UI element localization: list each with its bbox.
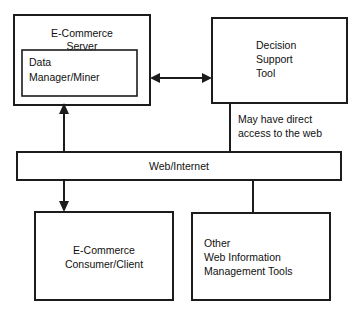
node-decision-support-tool-line2: Support xyxy=(256,53,293,65)
connector-server-to-dst[interactable] xyxy=(150,73,212,83)
node-data-manager-miner-line1: Data xyxy=(29,56,51,68)
annotation-direct-access-line2: access to the web xyxy=(238,127,322,139)
node-ecommerce-server-line1: E-Commerce xyxy=(51,27,113,39)
arrow-head-right-icon xyxy=(202,73,212,83)
arrow-head-left-icon xyxy=(150,73,160,83)
node-data-manager-miner-line2: Manager/Miner xyxy=(29,71,100,83)
arrow-head-down-icon xyxy=(59,201,69,212)
node-other-web-tools-line3: Management Tools xyxy=(204,265,293,277)
connector-web-to-server[interactable] xyxy=(59,103,69,152)
diagram-canvas: E-Commerce Server Data Manager/Miner Dec… xyxy=(0,0,361,315)
node-other-web-tools-line2: Web Information xyxy=(204,251,281,263)
connector-web-to-client[interactable] xyxy=(59,180,69,212)
architecture-diagram: E-Commerce Server Data Manager/Miner Dec… xyxy=(0,0,361,315)
node-ecommerce-client-line1: E-Commerce xyxy=(73,244,135,256)
annotation-direct-access-line1: May have direct xyxy=(238,113,312,125)
node-decision-support-tool-line1: Decision xyxy=(256,39,296,51)
node-other-web-tools-line1: Other xyxy=(204,237,231,249)
node-web-internet-label: Web/Internet xyxy=(149,160,209,172)
node-ecommerce-client[interactable] xyxy=(35,212,173,300)
node-ecommerce-client-line2: Consumer/Client xyxy=(65,258,143,270)
node-decision-support-tool-line3: Tool xyxy=(256,67,275,79)
